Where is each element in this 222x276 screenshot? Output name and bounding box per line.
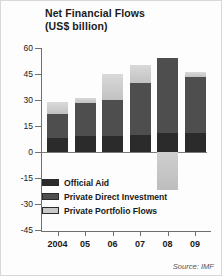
bar-segment-fdi — [130, 83, 151, 135]
legend-label: Official Aid — [64, 177, 109, 189]
y-tick — [35, 74, 41, 75]
y-tick — [35, 48, 41, 49]
y-tick — [35, 178, 41, 179]
y-tick-label: -15 — [3, 174, 33, 182]
legend-label: Private Direct Investment — [64, 191, 167, 203]
bar-segment-ppf — [130, 65, 151, 82]
y-tick-label: 45 — [3, 70, 33, 78]
y-tick — [35, 126, 41, 127]
bar-segment-aid — [102, 136, 123, 152]
chart-title-line1: Net Financial Flows — [45, 7, 215, 20]
y-tick — [35, 100, 41, 101]
legend-item-private-direct-investment: Private Direct Investment — [42, 191, 202, 204]
x-axis-line — [41, 231, 211, 232]
x-tick — [85, 231, 86, 236]
legend-label: Private Portfolio Flows — [64, 205, 157, 217]
bar-segment-ppf — [75, 98, 96, 103]
y-tick — [35, 230, 41, 231]
x-tick — [195, 231, 196, 236]
y-tick-label: 15 — [3, 122, 33, 130]
bar-segment-ppf — [47, 102, 68, 114]
bar-segment-aid — [75, 136, 96, 152]
y-tick-label: -30 — [3, 200, 33, 208]
bar-segment-fdi — [185, 77, 206, 132]
chart-legend: Official Aid Private Direct Investment P… — [42, 177, 202, 219]
x-tick — [58, 231, 59, 236]
y-tick-label: 0 — [3, 148, 33, 156]
bar-segment-fdi — [157, 58, 178, 133]
legend-swatch-icon — [42, 207, 59, 214]
bar-segment-fdi — [47, 114, 68, 138]
y-tick — [35, 152, 41, 153]
legend-item-private-portfolio-flows: Private Portfolio Flows — [42, 205, 202, 218]
bar-segment-aid — [130, 135, 151, 152]
source-note: Source: IMF — [173, 262, 214, 271]
bar-segment-fdi — [75, 103, 96, 136]
legend-swatch-icon — [42, 193, 59, 200]
chart-figure: Net Financial Flows (US$ billion) 60 45 … — [0, 0, 222, 276]
bar-segment-ppf — [102, 74, 123, 100]
x-tick — [113, 231, 114, 236]
bar-segment-fdi — [102, 100, 123, 136]
chart-title-line2: (US$ billion) — [45, 20, 215, 33]
zero-baseline — [41, 152, 207, 153]
x-tick — [168, 231, 169, 236]
y-tick — [35, 204, 41, 205]
bar-segment-aid — [47, 138, 68, 152]
bar-segment-ppf — [185, 72, 206, 77]
bar-segment-aid — [185, 133, 206, 152]
y-tick-label: 60 — [3, 44, 33, 52]
x-tick — [140, 231, 141, 236]
bar-segment-aid — [157, 133, 178, 152]
x-tick-label: 09 — [179, 239, 211, 249]
chart-title: Net Financial Flows (US$ billion) — [45, 7, 215, 32]
y-tick-label: -45 — [3, 226, 33, 234]
y-tick-label: 30 — [3, 96, 33, 104]
legend-item-official-aid: Official Aid — [42, 177, 202, 190]
legend-swatch-icon — [42, 179, 59, 186]
